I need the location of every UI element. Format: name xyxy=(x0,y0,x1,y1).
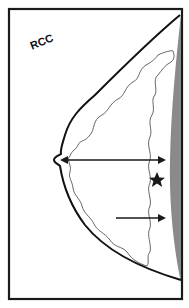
diagram-frame xyxy=(9,9,182,299)
breast-diagram: RCC xyxy=(0,0,189,308)
